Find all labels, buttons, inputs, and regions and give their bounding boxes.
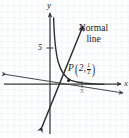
y-axis-label: y [47,1,51,10]
y-axis-tick-label: 5 [38,44,42,52]
coordinate-plot [0,0,129,138]
fraction-denominator: 2 [87,70,90,76]
point-p-marker [67,79,70,82]
x-axis-tick-label: 5 [80,88,84,95]
point-separator: , [84,64,86,74]
grid-lines [0,0,129,138]
graph-figure: y x 5 5 Normal line P(2,12) [0,0,129,138]
x-axis-label: x [124,79,128,88]
normal-line-label-line2: line [79,34,108,45]
normal-line-label: Normal line [79,23,108,44]
normal-line-label-line1: Normal [79,23,108,34]
point-p-name: P [68,64,74,74]
point-y-fraction: 12 [87,63,91,75]
point-p-label: P(2,12) [68,63,96,75]
